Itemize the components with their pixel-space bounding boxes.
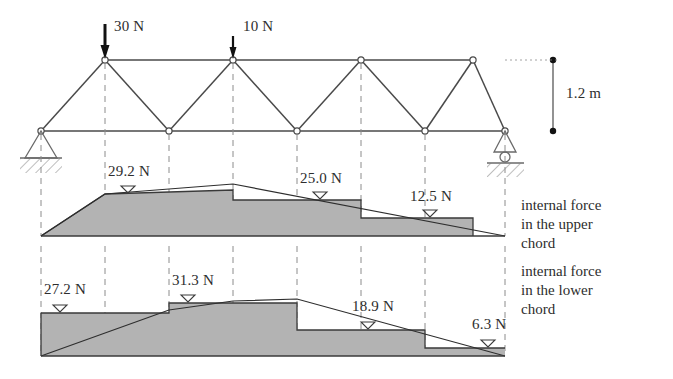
load-arrow-30N	[101, 24, 110, 59]
dimension-height-1p2m	[505, 57, 560, 134]
lower-caption-line-3: chord	[521, 300, 601, 319]
upper-value-label-2: 25.0 N	[300, 170, 342, 187]
upper-chord-fill	[41, 190, 473, 236]
lower-chord-force-diagram	[41, 295, 505, 356]
upper-caption-line-3: chord	[521, 234, 601, 253]
truss-diagonals	[41, 60, 505, 131]
upper-caption-line-2: in the upper	[521, 215, 601, 234]
upper-value-label-1: 29.2 N	[108, 163, 150, 180]
lower-value-label-2: 31.3 N	[172, 272, 214, 289]
figure-canvas: 30 N 10 N 1.2 m 29.2 N 25.0 N 12.5 N 27.…	[0, 0, 673, 379]
upper-caption-line-1: internal force	[521, 196, 601, 215]
load-arrow-10N	[230, 36, 237, 59]
load-label-30n: 30 N	[114, 18, 144, 35]
lower-value-label-1: 27.2 N	[44, 281, 86, 298]
figure-vector	[0, 0, 673, 379]
upper-value-label-3: 12.5 N	[410, 188, 452, 205]
truss-joints	[38, 57, 508, 134]
lower-caption-line-1: internal force	[521, 262, 601, 281]
truss-assembly	[38, 57, 508, 134]
lower-value-label-3: 18.9 N	[352, 298, 394, 315]
load-label-10n: 10 N	[243, 18, 273, 35]
lower-value-label-4: 6.3 N	[472, 316, 506, 333]
lower-caption-line-2: in the lower	[521, 281, 601, 300]
dimension-label-height: 1.2 m	[566, 85, 601, 102]
